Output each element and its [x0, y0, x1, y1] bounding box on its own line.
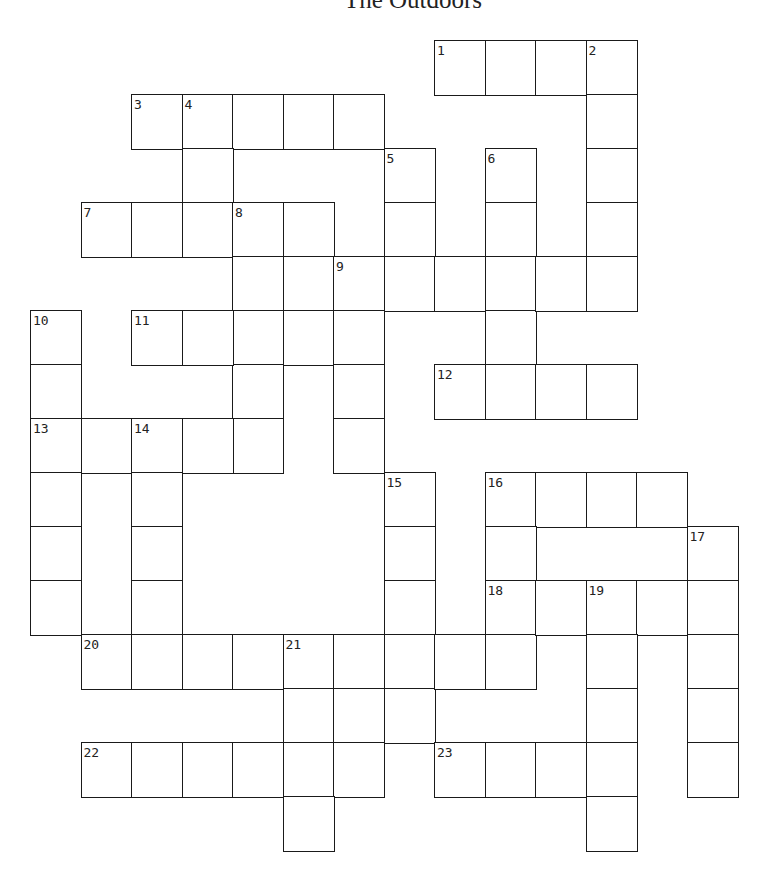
crossword-cell[interactable]: [30, 526, 82, 582]
crossword-cell[interactable]: [586, 148, 638, 204]
crossword-cell[interactable]: [535, 742, 587, 798]
crossword-cell[interactable]: [232, 634, 284, 690]
crossword-cell[interactable]: 7: [81, 202, 133, 258]
crossword-cell[interactable]: [232, 94, 284, 150]
crossword-cell[interactable]: [131, 580, 183, 636]
crossword-cell[interactable]: [434, 256, 486, 312]
crossword-cell[interactable]: [485, 256, 537, 312]
crossword-cell[interactable]: [687, 742, 739, 798]
crossword-cell[interactable]: 6: [485, 148, 537, 204]
crossword-cell[interactable]: [283, 256, 335, 312]
crossword-cell[interactable]: [182, 418, 234, 474]
crossword-cell[interactable]: 9: [333, 256, 385, 312]
crossword-cell[interactable]: [485, 526, 537, 582]
crossword-cell[interactable]: [81, 418, 133, 474]
crossword-cell[interactable]: [283, 796, 335, 852]
crossword-cell[interactable]: [586, 796, 638, 852]
crossword-cell[interactable]: 19: [586, 580, 638, 636]
crossword-cell[interactable]: [232, 418, 284, 474]
crossword-cell[interactable]: 5: [384, 148, 436, 204]
crossword-cell[interactable]: 15: [384, 472, 436, 528]
crossword-cell[interactable]: [131, 526, 183, 582]
crossword-cell[interactable]: [586, 472, 638, 528]
crossword-cell[interactable]: [434, 634, 486, 690]
crossword-cell[interactable]: 14: [131, 418, 183, 474]
crossword-cell[interactable]: [485, 742, 537, 798]
crossword-cell[interactable]: [232, 742, 284, 798]
crossword-cell[interactable]: [384, 256, 436, 312]
crossword-cell[interactable]: [131, 634, 183, 690]
crossword-cell[interactable]: [687, 634, 739, 690]
crossword-cell[interactable]: 20: [81, 634, 133, 690]
crossword-cell[interactable]: [586, 202, 638, 258]
crossword-cell[interactable]: 16: [485, 472, 537, 528]
crossword-cell[interactable]: 17: [687, 526, 739, 582]
crossword-cell[interactable]: [535, 256, 587, 312]
crossword-cell[interactable]: [283, 688, 335, 744]
crossword-cell[interactable]: [182, 634, 234, 690]
crossword-cell[interactable]: [636, 472, 688, 528]
crossword-cell[interactable]: [30, 580, 82, 636]
crossword-cell[interactable]: [333, 94, 385, 150]
crossword-cell[interactable]: [283, 202, 335, 258]
crossword-cell[interactable]: 4: [182, 94, 234, 150]
crossword-cell[interactable]: [182, 742, 234, 798]
crossword-cell[interactable]: [586, 742, 638, 798]
crossword-cell[interactable]: 3: [131, 94, 183, 150]
crossword-cell[interactable]: [182, 148, 234, 204]
crossword-cell[interactable]: [182, 202, 234, 258]
crossword-cell[interactable]: [283, 742, 335, 798]
crossword-cell[interactable]: 8: [232, 202, 284, 258]
crossword-cell[interactable]: [485, 634, 537, 690]
crossword-cell[interactable]: [586, 364, 638, 420]
crossword-cell[interactable]: [131, 202, 183, 258]
crossword-cell[interactable]: 10: [30, 310, 82, 366]
crossword-cell[interactable]: [384, 526, 436, 582]
crossword-cell[interactable]: [535, 40, 587, 96]
crossword-cell[interactable]: 13: [30, 418, 82, 474]
crossword-cell[interactable]: [687, 688, 739, 744]
crossword-cell[interactable]: 2: [586, 40, 638, 96]
clue-number: 14: [134, 422, 150, 435]
crossword-cell[interactable]: 1: [434, 40, 486, 96]
crossword-cell[interactable]: [384, 202, 436, 258]
crossword-cell[interactable]: [232, 256, 284, 312]
crossword-cell[interactable]: 23: [434, 742, 486, 798]
crossword-cell[interactable]: [535, 364, 587, 420]
crossword-cell[interactable]: [586, 688, 638, 744]
crossword-cell[interactable]: [485, 40, 537, 96]
crossword-cell[interactable]: 21: [283, 634, 335, 690]
crossword-cell[interactable]: [636, 580, 688, 636]
crossword-cell[interactable]: 12: [434, 364, 486, 420]
crossword-cell[interactable]: [283, 310, 335, 366]
crossword-cell[interactable]: [333, 634, 385, 690]
crossword-cell[interactable]: [485, 364, 537, 420]
crossword-cell[interactable]: [586, 634, 638, 690]
crossword-cell[interactable]: 22: [81, 742, 133, 798]
crossword-cell[interactable]: [535, 580, 587, 636]
crossword-cell[interactable]: [232, 364, 284, 420]
crossword-cell[interactable]: 18: [485, 580, 537, 636]
crossword-cell[interactable]: [333, 742, 385, 798]
crossword-cell[interactable]: [30, 472, 82, 528]
crossword-cell[interactable]: [485, 310, 537, 366]
crossword-cell[interactable]: [586, 256, 638, 312]
crossword-cell[interactable]: [333, 364, 385, 420]
crossword-cell[interactable]: [384, 688, 436, 744]
crossword-cell[interactable]: [30, 364, 82, 420]
crossword-cell[interactable]: [687, 580, 739, 636]
crossword-cell[interactable]: [131, 742, 183, 798]
crossword-cell[interactable]: [535, 472, 587, 528]
crossword-cell[interactable]: [333, 310, 385, 366]
crossword-cell[interactable]: [283, 94, 335, 150]
crossword-cell[interactable]: [333, 418, 385, 474]
crossword-cell[interactable]: [384, 634, 436, 690]
crossword-cell[interactable]: [131, 472, 183, 528]
crossword-cell[interactable]: [232, 310, 284, 366]
crossword-cell[interactable]: [586, 94, 638, 150]
crossword-cell[interactable]: 11: [131, 310, 183, 366]
crossword-cell[interactable]: [485, 202, 537, 258]
crossword-cell[interactable]: [182, 310, 234, 366]
crossword-cell[interactable]: [384, 580, 436, 636]
crossword-cell[interactable]: [333, 688, 385, 744]
